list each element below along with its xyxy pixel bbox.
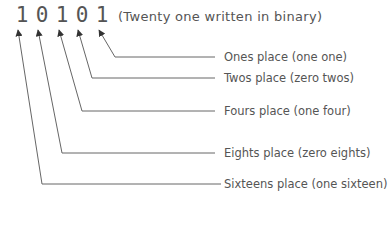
- label-twos-place: Twos place (zero twos): [224, 71, 354, 85]
- sixteens-arrow-icon: [18, 30, 221, 184]
- ones-arrow-icon: [99, 30, 215, 57]
- fours-arrow-icon: [59, 30, 215, 111]
- label-sixteens-place: Sixteens place (one sixteen): [224, 177, 387, 191]
- twos-arrow-icon: [78, 30, 215, 78]
- label-eights-place: Eights place (zero eights): [224, 146, 370, 160]
- label-ones-place: Ones place (one one): [224, 50, 347, 64]
- label-fours-place: Fours place (one four): [224, 104, 351, 118]
